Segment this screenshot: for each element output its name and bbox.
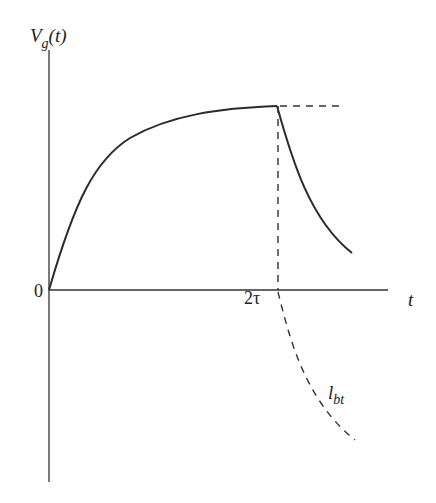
two-tau-tick-label: 2τ <box>244 288 260 308</box>
discharge-curve <box>277 106 352 253</box>
lbt-dashed-curve <box>278 292 355 440</box>
voltage-diagram: Vg(t) 0 2τ t lbt <box>0 0 436 503</box>
origin-label: 0 <box>34 281 43 301</box>
lbt-label: lbt <box>328 382 345 407</box>
x-axis-label: t <box>408 289 414 310</box>
charging-curve <box>49 106 277 290</box>
y-axis-label: Vg(t) <box>30 25 67 51</box>
